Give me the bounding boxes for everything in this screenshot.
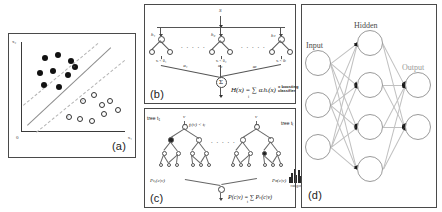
- forest-edge-right-b: [242, 142, 250, 152]
- weak-learner-leaf-0-1: [167, 49, 173, 55]
- boosting-output-arrow: [219, 95, 223, 98]
- boosting-alpha-label-1: α₂: [218, 63, 222, 68]
- svm-point-class1-2: [99, 102, 105, 108]
- nn-layer-label-hidden: Hidden: [354, 21, 378, 30]
- forest-edge-right-b: [270, 142, 278, 152]
- forest-input-symbol-right: v: [255, 114, 257, 119]
- boosting-equation-subscript: i: [248, 94, 249, 99]
- panel-boosting: Sh₁xᵢ < θ₁h₂xᵢ < θ₂hₜxᵢ < θₜ∙ ∙ ∙ ∙ ∙∙ ∙…: [144, 4, 296, 104]
- nn-edge-l1-3-1: [383, 127, 406, 169]
- panel-svm: x₂ x₁ 0 ××× (a): [8, 33, 136, 158]
- weak-learner-tick-0: [161, 56, 162, 59]
- forest-leaf-distribution-right: Pₜₜ(c|v): [272, 177, 286, 183]
- nn-node-input-1: [305, 92, 331, 118]
- boosting-sum-node: Σ: [216, 77, 227, 88]
- forest-node-right-l3-3: [263, 163, 268, 168]
- forest-node-left-l3-2: [175, 163, 180, 168]
- nn-layer-label-input: Input: [306, 41, 323, 50]
- svm-line-upper-margin: [23, 43, 99, 106]
- support-vector-mark-1: ×: [67, 114, 69, 119]
- svm-point-class1-1: [55, 52, 61, 58]
- svm-scatter-plot: x₂ x₁ 0 ×××: [21, 42, 125, 132]
- svm-point-class1-6: [41, 82, 47, 88]
- weak-learner-leaf-1-0: [209, 49, 215, 55]
- weak-learner-leaf-2-1: [287, 49, 293, 55]
- svm-point-class1-7: [56, 84, 62, 90]
- weak-learner-leaf-1-1: [227, 49, 233, 55]
- nn-node-output-0: [405, 72, 431, 98]
- boosting-root-label: S: [219, 8, 222, 13]
- forest-output-arrow: [219, 198, 223, 201]
- forest-edge-left-b: [170, 142, 178, 152]
- weak-learner-tick-2: [281, 56, 282, 59]
- origin-label: 0: [16, 135, 19, 140]
- panel-tag-b: (b): [150, 88, 164, 100]
- forest-equation: P(c|v) = ∑ Pₜ(c|v): [228, 193, 272, 200]
- boosting-alpha-label-2: αₜ: [253, 63, 257, 69]
- nn-node-hidden-2: [357, 114, 383, 140]
- forest-edge-right-a: [242, 128, 257, 138]
- weak-learner-label-1: h₂: [211, 32, 215, 37]
- panel-tag-a: (a): [112, 140, 126, 152]
- forest-split-condition: fⱼ(v) < tⱼ: [189, 121, 205, 127]
- svm-point-class1-4: [115, 107, 121, 113]
- four-panel-ml-figure: x₂ x₁ 0 ××× (a) Sh₁xᵢ < θ₁h₂xᵢ < θ₂hₜxᵢ …: [0, 0, 442, 212]
- forest-aggregate-edge-1: [221, 178, 257, 185]
- nn-node-input-2: [305, 134, 331, 160]
- weak-learner-label-0: h₁: [151, 32, 155, 37]
- forest-edge-right-c: [248, 155, 250, 163]
- forest-edge-left-c: [176, 155, 178, 163]
- boosting-alpha-label-0: α₁: [183, 63, 187, 68]
- forest-node-left-l3-0: [159, 163, 164, 168]
- svm-point-class1-0: [42, 55, 48, 61]
- y-axis: [21, 42, 22, 132]
- svm-point-class1-6: [77, 116, 83, 122]
- panel-tag-d: (d): [308, 189, 322, 201]
- forest-ellipsis: ∙ ∙ ∙ ∙ ∙: [211, 139, 236, 147]
- boosting-equation-note: = boostingclassifier: [278, 85, 298, 93]
- forest-tree-right-label: tree tₜ: [281, 120, 293, 126]
- svm-point-class1-4: [50, 68, 56, 74]
- weak-learner-tick-1: [221, 56, 222, 59]
- y-axis-label: x₂: [12, 39, 16, 44]
- weak-learner-label-2: hₜ: [271, 32, 275, 38]
- svm-point-class1-3: [107, 98, 113, 104]
- forest-equation-subscript: t: [247, 200, 248, 204]
- forest-leaf-distribution-left: Pₜ₁(c|v): [150, 177, 165, 183]
- nn-node-hidden-0: [357, 30, 383, 56]
- forest-edge-right-c: [277, 155, 281, 163]
- svm-point-class1-5: [65, 72, 71, 78]
- weak-learner-leaf-0-0: [149, 49, 155, 55]
- weak-learner-leaf-2-0: [269, 49, 275, 55]
- nn-layer-label-output: Output: [402, 63, 424, 72]
- svm-point-class1-8: [101, 111, 107, 117]
- boosting-note-line2: classifier: [278, 89, 298, 93]
- boosting-distribution-bus: [157, 27, 285, 28]
- boosting-alpha-edge-2: [221, 64, 281, 77]
- forest-edge-left-b: [198, 142, 206, 152]
- forest-aggregate-edge-0: [185, 179, 221, 186]
- x-axis-label: x₁: [128, 135, 132, 140]
- panel-random-forest: vfⱼ(v) < tⱼtree t₁Pₜ₁(c|v)vtree tₜPₜₜ(c|…: [144, 108, 296, 208]
- forest-input-symbol-left: v: [183, 114, 185, 119]
- svm-point-class1-1: [91, 92, 97, 98]
- forest-edge-left-a: [170, 128, 185, 138]
- svm-point-class1-2: [68, 58, 74, 64]
- svm-point-class1-3: [37, 70, 43, 76]
- nn-node-output-1: [405, 114, 431, 140]
- boosting-diagram: Sh₁xᵢ < θ₁h₂xᵢ < θ₂hₜxᵢ < θₜ∙ ∙ ∙ ∙ ∙∙ ∙…: [145, 5, 295, 103]
- forest-edge-left-c: [205, 155, 209, 163]
- forest-node-right-l3-0: [231, 163, 236, 168]
- neural-network-diagram: InputHiddenOutput: [302, 5, 436, 207]
- forest-edge-left-a: [184, 129, 199, 139]
- forest-sum-node: [218, 186, 225, 193]
- nn-node-hidden-1: [357, 72, 383, 98]
- support-vector-mark-0: ×: [81, 98, 83, 103]
- panel-tag-c: (c): [150, 192, 163, 204]
- forest-node-left-l3-3: [191, 163, 196, 168]
- boosting-ellipsis-1: ∙ ∙ ∙ ∙ ∙: [241, 44, 266, 52]
- forest-edge-right-a: [256, 129, 271, 139]
- forest-node-right-l3-2: [247, 163, 252, 168]
- boosting-ellipsis-0: ∙ ∙ ∙ ∙ ∙: [181, 44, 206, 52]
- forest-tree-left-label: tree t₁: [147, 115, 160, 121]
